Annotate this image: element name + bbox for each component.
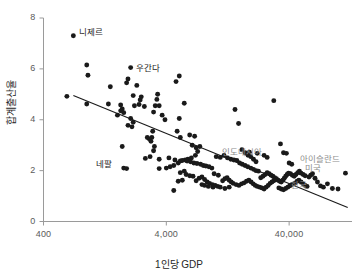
scatter-point [321,185,326,190]
y-axis-title: 합계출산율 [3,67,18,139]
scatter-point [126,123,131,128]
scatter-point [137,102,142,107]
scatter-point [84,63,89,68]
x-tick-label: 4,000 [138,229,194,239]
scatter-point [120,144,125,149]
scatter-point [176,161,181,166]
scatter-point [233,107,238,112]
scatter-point [216,173,221,178]
x-tick-label: 40,000 [261,229,317,239]
scatter-point [154,97,159,102]
scatter-point [151,148,156,153]
annotation-label: 니제르 [79,28,103,37]
axis-lines [44,18,353,222]
y-tick-label: 0 [14,216,36,226]
scatter-point [336,186,341,191]
scatter-point [131,93,136,98]
scatter-point [209,166,214,171]
scatter-point [124,80,129,85]
scatter-point [180,178,185,183]
scatter-point [330,186,335,191]
annotation-label: 우간다 [136,64,160,73]
scatter-point [155,92,160,97]
scatter-point [177,74,182,79]
scatter-point [325,181,330,186]
scatter-point [157,157,162,162]
scatter-point [149,139,154,144]
scatter-point [218,185,223,190]
scatter-point [157,166,162,171]
scatter-point [166,155,171,160]
scatter-point [134,83,139,88]
annotation-label: 인도네시아 [222,148,262,157]
scatter-point [118,108,123,113]
scatter-point [160,113,165,118]
scatter-point [271,98,276,103]
x-tick-label: 400 [16,229,72,239]
scatter-point [222,186,227,191]
scatter-point [254,159,259,164]
fertility-gdp-scatter-chart: 02468 4004,00040,000 니제르우간다네팔인도네시아아이슬란드미… [0,0,358,274]
scatter-point [212,171,217,176]
scatter-point [343,171,348,176]
scatter-point [289,162,294,167]
scatter-point [180,158,185,163]
scatter-point [163,117,168,122]
scatter-point [71,33,76,38]
scatter-point [64,94,69,99]
scatter-point [138,97,143,102]
scatter-point [174,79,179,84]
scatter-point [152,144,157,149]
scatter-point [176,179,181,184]
scatter-point [182,101,187,106]
y-tick-label: 2 [14,165,36,175]
scatter-point [187,133,192,138]
scatter-point [142,104,147,109]
trend-line [73,96,347,208]
scatter-point [175,129,180,134]
scatter-point [148,154,153,159]
scatter-point [132,103,137,108]
y-axis-tick-marks [40,18,44,222]
annotation-label: 한국 [291,181,307,190]
scatter-point [236,121,241,126]
scatter-point [85,73,90,78]
scatter-point [128,65,133,70]
x-axis-tick-marks [44,222,290,226]
scatter-point [265,155,270,160]
scatter-point [178,170,183,175]
scatter-point [124,166,129,171]
scatter-point [211,185,216,190]
annotation-label: 미국 [305,164,321,173]
scatter-point [315,180,320,185]
scatter-point [284,151,289,156]
y-tick-label: 8 [14,12,36,22]
scatter-point [143,156,148,161]
scatter-point [108,84,113,89]
scatter-point [157,103,162,108]
scatter-point [106,102,111,107]
scatter-point [191,174,196,179]
scatter-point [171,188,176,193]
scatter-point [151,110,156,115]
scatter-point [202,183,207,188]
scatter-point [278,141,283,146]
scatter-point [145,135,150,140]
scatter-point [177,116,182,121]
x-axis-title: 1인당 GDP [0,256,358,271]
scatter-point [192,134,197,139]
scatter-point [164,166,169,171]
scatter-point [150,129,155,134]
scatter-point [227,185,232,190]
annotation-label: 네팔 [96,160,112,169]
